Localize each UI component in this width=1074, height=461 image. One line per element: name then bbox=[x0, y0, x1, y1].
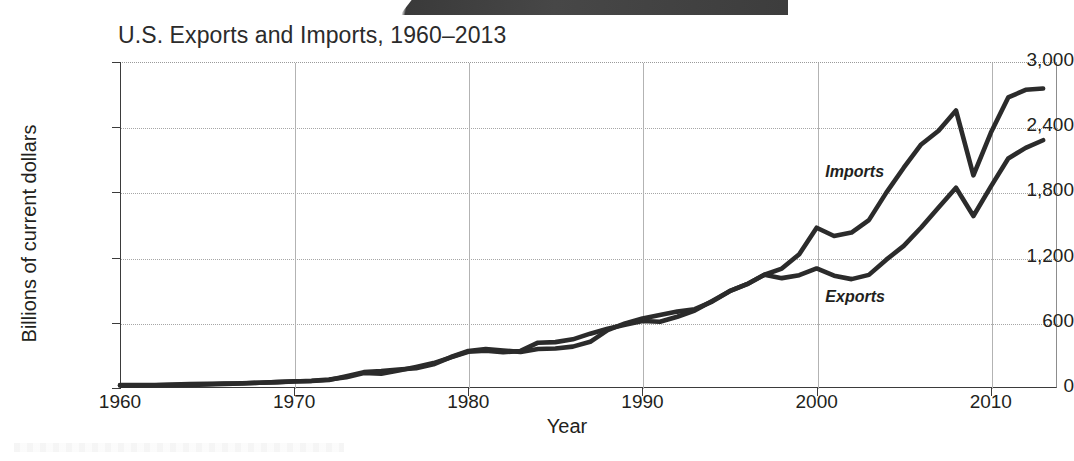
gridline-vertical bbox=[295, 63, 296, 389]
scan-artifact-bar bbox=[400, 0, 788, 15]
y-tick-mark bbox=[112, 127, 121, 128]
gridline-horizontal bbox=[121, 193, 1058, 194]
x-tick-mark bbox=[642, 388, 643, 396]
y-tick-mark bbox=[112, 192, 121, 193]
gridline-horizontal bbox=[121, 128, 1058, 129]
gridline-horizontal bbox=[121, 324, 1058, 325]
gridline-vertical bbox=[469, 63, 470, 389]
y-tick-label: 1,200 bbox=[988, 245, 1074, 267]
y-tick-mark bbox=[112, 62, 121, 63]
gridline-vertical bbox=[643, 63, 644, 389]
y-tick-mark bbox=[112, 388, 121, 389]
plot-area bbox=[120, 62, 1057, 388]
y-tick-mark bbox=[112, 258, 121, 259]
x-tick-label: 1960 bbox=[75, 391, 165, 413]
gridline-vertical bbox=[992, 63, 993, 389]
series-label-imports: Imports bbox=[825, 163, 884, 181]
chart-title: U.S. Exports and Imports, 1960–2013 bbox=[118, 22, 506, 49]
y-tick-label: 1,800 bbox=[988, 179, 1074, 201]
y-tick-mark bbox=[112, 323, 121, 324]
y-axis-label: Billions of current dollars bbox=[18, 54, 41, 414]
gridline-horizontal bbox=[121, 259, 1058, 260]
x-tick-mark bbox=[817, 388, 818, 396]
y-tick-label: 2,400 bbox=[988, 114, 1074, 136]
x-tick-mark bbox=[468, 388, 469, 396]
chart-figure: U.S. Exports and Imports, 1960–2013 Bill… bbox=[0, 0, 1074, 461]
x-tick-mark bbox=[294, 388, 295, 396]
y-tick-label: 600 bbox=[988, 310, 1074, 332]
gridline-vertical bbox=[818, 63, 819, 389]
x-tick-mark bbox=[991, 388, 992, 396]
series-label-exports: Exports bbox=[825, 288, 885, 306]
page-bleed-smudge bbox=[14, 443, 344, 452]
x-axis-label: Year bbox=[0, 415, 1074, 438]
y-tick-label: 3,000 bbox=[988, 49, 1074, 71]
